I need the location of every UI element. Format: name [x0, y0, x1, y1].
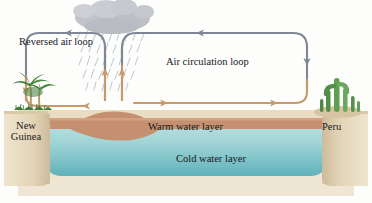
palm-tree-icon	[12, 72, 56, 110]
label-new-guinea: New Guinea	[2, 120, 50, 142]
diagram-canvas: Reversed air loop Air circulation loop W…	[0, 0, 372, 203]
label-warm-water-layer: Warm water layer	[148, 121, 223, 132]
air-circulation-loop-arrow	[118, 29, 310, 106]
label-cold-water-layer: Cold water layer	[176, 153, 246, 164]
diagram-svg	[0, 0, 372, 203]
label-peru: Peru	[322, 121, 341, 132]
cloud-icon	[73, 0, 154, 34]
label-reversed-air-loop: Reversed air loop	[18, 36, 94, 47]
label-air-circulation-loop: Air circulation loop	[166, 56, 249, 67]
cactus-icon	[314, 78, 362, 118]
